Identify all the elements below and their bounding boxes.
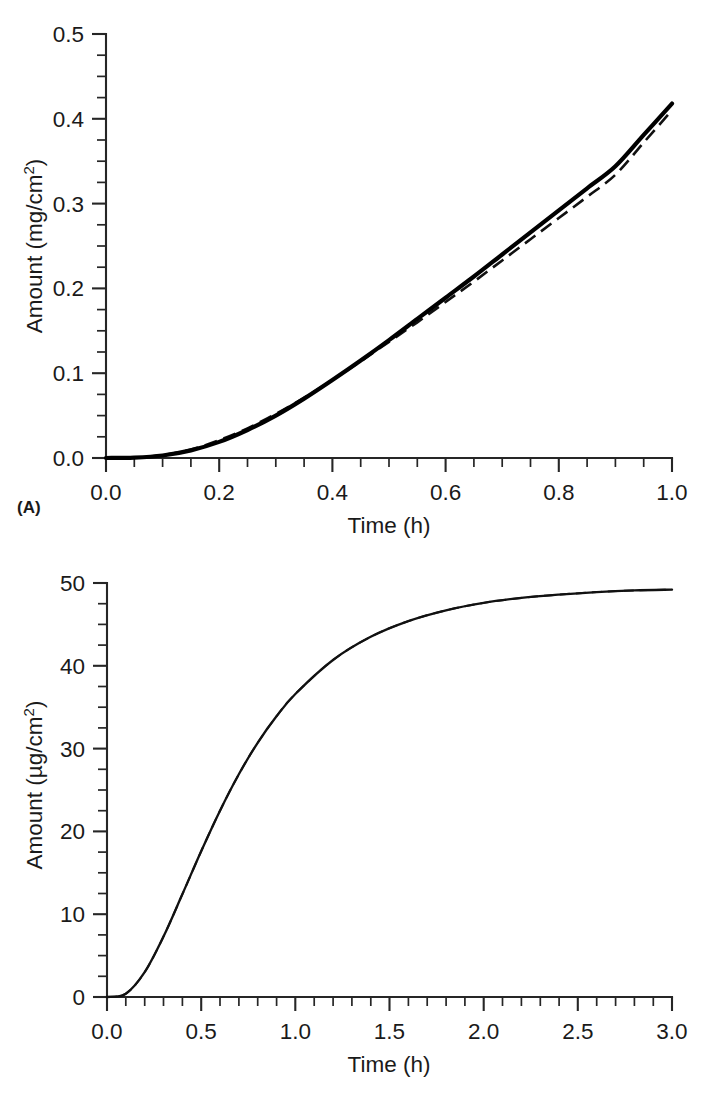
chart-panel-a: Amount (mg/cm2) [0, 0, 711, 545]
y-tick-label: 0 [72, 985, 85, 1010]
y-axis-title-b: Amount (µg/cm2) [20, 701, 47, 870]
y-tick-label: 0.2 [53, 276, 84, 301]
y-axis-title-b-text: Amount (µg/cm [22, 716, 47, 869]
data-curve-solid-b [107, 590, 672, 997]
y-tick-label: 0.5 [53, 22, 84, 47]
x-tick-label: 1.5 [374, 1019, 405, 1044]
x-tick-label: 0.0 [91, 1019, 122, 1044]
y-tick-label: 0.1 [53, 361, 84, 386]
y-tick-label: 0.0 [53, 446, 84, 471]
panel-tag-a: (A) [17, 498, 41, 518]
x-tick-label: 2.0 [468, 1019, 499, 1044]
x-tick-label: 0.2 [204, 480, 235, 505]
x-tick-label: 1.0 [656, 480, 687, 505]
x-tick-label: 0.5 [186, 1019, 217, 1044]
y-axis-title-b-sup: 2 [20, 708, 37, 716]
y-axis-title-b-suffix: ) [22, 701, 47, 709]
x-tick-labels-a: 0.0 0.2 0.4 0.6 0.8 1.0 [90, 480, 687, 505]
x-tick-label: 2.5 [562, 1019, 593, 1044]
y-minor-ticks-b [98, 604, 107, 977]
data-curve-dashed-a [106, 110, 672, 458]
x-tick-label: 0.8 [543, 480, 574, 505]
x-tick-label: 3.0 [656, 1019, 687, 1044]
y-axis-title-a: Amount (mg/cm2) [20, 159, 47, 334]
y-axis-title-a-text: Amount (mg/cm [22, 175, 47, 334]
chart-svg-a: Amount (mg/cm2) [0, 0, 711, 545]
y-tick-label: 20 [60, 819, 85, 844]
data-curve-dashed-b [107, 590, 672, 997]
chart-svg-b: Amount (µg/cm2) [0, 545, 711, 1100]
y-tick-labels-b: 0 10 20 30 40 50 [60, 571, 85, 1010]
chart-panel-b: Amount (µg/cm2) [0, 545, 711, 1100]
y-axis-title-a-suffix: ) [22, 159, 47, 167]
y-tick-label: 0.4 [53, 107, 84, 132]
y-tick-labels-a: 0.0 0.1 0.2 0.3 0.4 0.5 [53, 22, 84, 471]
x-axis-title-b: Time (h) [348, 1052, 431, 1077]
y-minor-ticks-a [97, 55, 106, 437]
y-tick-label: 50 [60, 571, 85, 596]
x-tick-label: 0.0 [90, 480, 121, 505]
x-tick-label: 0.6 [430, 480, 461, 505]
y-tick-label: 40 [60, 654, 85, 679]
x-axis-title-a: Time (h) [348, 513, 431, 538]
x-tick-labels-b: 0.0 0.5 1.0 1.5 2.0 2.5 3.0 [91, 1019, 687, 1044]
x-minor-ticks-a [134, 458, 643, 467]
x-tick-label: 0.4 [317, 480, 348, 505]
data-curve-solid-a [106, 104, 672, 458]
y-axis-title-a-sup: 2 [20, 166, 37, 174]
x-tick-label: 1.0 [280, 1019, 311, 1044]
y-tick-label: 0.3 [53, 192, 84, 217]
figure-container: Amount (mg/cm2) [0, 0, 711, 1100]
y-tick-label: 30 [60, 737, 85, 762]
y-tick-label: 10 [60, 902, 85, 927]
x-major-ticks-b [107, 997, 672, 1011]
